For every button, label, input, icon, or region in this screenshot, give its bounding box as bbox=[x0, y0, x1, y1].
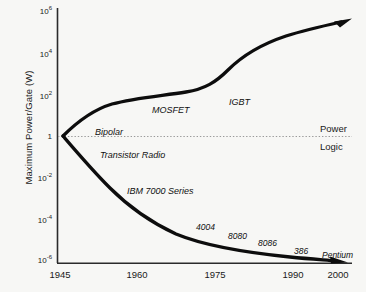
annotation-bipolar: Bipolar bbox=[95, 127, 123, 137]
power-curve-arrowhead bbox=[334, 19, 352, 28]
y-tick-1e2: 102 bbox=[18, 92, 52, 101]
annotation-pentium: Pentium bbox=[322, 250, 353, 260]
x-tick-1960: 1960 bbox=[115, 269, 159, 280]
x-tick-2000: 2000 bbox=[316, 269, 360, 280]
annotation-8086: 8086 bbox=[258, 238, 277, 248]
annotation-386: 386 bbox=[294, 246, 308, 256]
chart-figure: Maximum Power/Gate (W) 106 104 102 1 10-… bbox=[0, 0, 366, 292]
y-tick-exp-1e2: 2 bbox=[49, 90, 52, 96]
chart-plot-area bbox=[0, 0, 366, 292]
y-tick-exp-1e-2: -2 bbox=[47, 172, 52, 178]
y-tick-1e6: 106 bbox=[18, 7, 52, 16]
label-logic: Logic bbox=[320, 141, 343, 152]
annotation-mosfet: MOSFET bbox=[152, 105, 190, 115]
x-tick-1975: 1975 bbox=[193, 269, 237, 280]
x-tick-1990: 1990 bbox=[271, 269, 315, 280]
y-tick-exp-1e-4: -4 bbox=[47, 214, 52, 220]
y-tick-1e4: 104 bbox=[18, 50, 52, 59]
y-tick-1e-6: 10-6 bbox=[18, 256, 52, 265]
y-axis-title: Maximum Power/Gate (W) bbox=[23, 38, 34, 218]
annotation-igbt: IGBT bbox=[229, 97, 250, 107]
label-power: Power bbox=[320, 123, 347, 134]
x-tick-1945: 1945 bbox=[38, 269, 82, 280]
y-tick-1: 1 bbox=[18, 132, 52, 141]
y-tick-exp-1e-6: -6 bbox=[47, 254, 52, 260]
y-tick-mantissa-1: 1 bbox=[48, 132, 52, 141]
annotation-4004: 4004 bbox=[196, 222, 215, 232]
annotation-transistor-radio: Transistor Radio bbox=[100, 150, 165, 160]
power-device-curve bbox=[63, 22, 341, 136]
annotation-ibm-7000-series: IBM 7000 Series bbox=[127, 186, 194, 196]
y-tick-1e-2: 10-2 bbox=[18, 174, 52, 183]
y-tick-exp-1e4: 4 bbox=[49, 48, 52, 54]
y-tick-1e-4: 10-4 bbox=[18, 216, 52, 225]
annotation-8080: 8080 bbox=[228, 231, 247, 241]
y-tick-exp-1e6: 6 bbox=[49, 5, 52, 11]
